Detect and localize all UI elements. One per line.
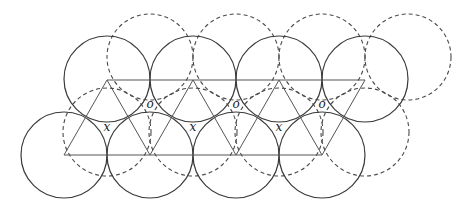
dashed-circle xyxy=(365,14,451,100)
o-site-label: o xyxy=(318,97,325,111)
x-site-label: x xyxy=(104,120,111,134)
circle-packing-diagram: x x x o o o xyxy=(0,0,465,213)
dashed-circle xyxy=(279,14,365,100)
x-site-label: x xyxy=(276,120,283,134)
x-site-label: x xyxy=(190,120,197,134)
dashed-circle xyxy=(321,88,409,176)
o-site-label: o xyxy=(232,97,239,111)
dashed-circle xyxy=(107,14,193,100)
solid-circle xyxy=(322,36,408,122)
dashed-circle xyxy=(193,14,279,100)
o-site-label: o xyxy=(146,97,153,111)
